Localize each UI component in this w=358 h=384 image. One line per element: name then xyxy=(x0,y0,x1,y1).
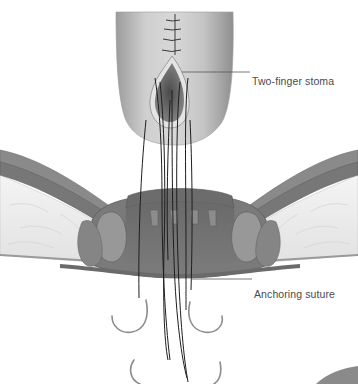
stoma-illustration xyxy=(0,0,358,384)
label-anchoring-suture: Anchoring suture xyxy=(254,288,335,300)
needle-left-lower xyxy=(131,360,140,384)
corner-fragment xyxy=(316,366,358,384)
suture-needles xyxy=(112,300,222,384)
needle-right-upper xyxy=(189,302,223,332)
bowel-segment xyxy=(110,6,240,145)
label-two-finger-stoma: Two-finger stoma xyxy=(252,75,334,87)
needle-right-lower xyxy=(214,362,221,384)
needle-left-upper xyxy=(112,300,147,332)
